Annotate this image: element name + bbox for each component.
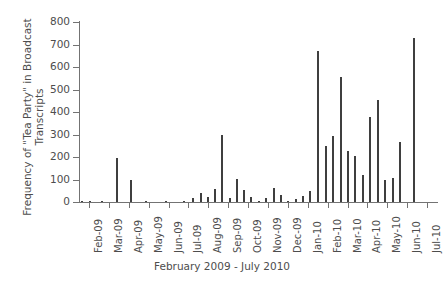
x-tick-Jan-10 [308,203,309,208]
x-tick-Apr-09 [129,203,130,208]
y-tick-label-800: 800 [8,15,70,27]
plot-area [79,22,437,202]
x-axis-tick-labels: Feb-09Mar-09Apr-09May-09Jun-09Jul-09Aug-… [79,209,438,255]
bar [354,156,356,202]
x-tick-Mar-10 [348,203,349,208]
bar [413,38,415,202]
x-tick-label-Nov-09: Nov-09 [272,217,283,253]
x-tick-label-Apr-09: Apr-09 [133,220,144,253]
bar [183,201,185,202]
x-tick-Aug-09 [208,203,209,208]
x-tick-Jun-10 [407,203,408,208]
bar [207,197,209,202]
bar [340,77,342,202]
bar [362,175,364,202]
bar [243,190,245,202]
x-tick-label-Oct-09: Oct-09 [252,219,263,253]
x-tick-label-Feb-10: Feb-10 [332,219,343,253]
bar [165,201,167,202]
y-tick-label-100: 100 [8,173,70,185]
bar [250,197,252,202]
bar [221,135,223,203]
x-tick-Feb-09 [89,203,90,208]
bar [214,189,216,203]
y-tick-label-0: 0 [8,195,70,207]
bar-series [79,22,437,202]
bar [295,199,297,202]
bar [302,196,304,202]
bar [130,180,132,203]
x-tick-Sep-09 [228,203,229,208]
bar [192,198,194,202]
y-tick-label-500: 500 [8,83,70,95]
bar [287,201,289,202]
x-tick-label-Apr-10: Apr-10 [371,220,382,253]
bar [81,201,83,202]
bar [384,180,386,202]
x-tick-Mar-09 [109,203,110,208]
x-tick-Jul-10 [427,203,428,208]
x-tick-label-Aug-09: Aug-09 [212,217,223,253]
x-tick-label-Mar-10: Mar-10 [352,218,363,253]
bar [273,188,275,202]
bar [145,201,147,202]
x-tick-label-Mar-09: Mar-09 [113,218,124,253]
bar [317,51,319,202]
x-tick-label-Sep-09: Sep-09 [232,218,243,253]
x-tick-Dec-09 [288,203,289,208]
bar [309,191,311,202]
y-tick-label-700: 700 [8,38,70,50]
x-tick-Jun-09 [169,203,170,208]
x-axis-title: February 2009 - July 2010 [0,260,444,272]
bar [265,198,267,202]
x-tick-label-Jul-10: Jul-10 [431,225,442,253]
x-tick-Feb-10 [328,203,329,208]
x-tick-label-Jul-09: Jul-09 [192,225,203,253]
x-tick-May-09 [149,203,150,208]
x-tick-label-Dec-09: Dec-09 [292,217,303,253]
x-tick-label-Jan-10: Jan-10 [312,221,323,253]
chart-figure: Frequency of "Tea Party" in Broadcast Tr… [0,0,444,289]
bar [325,146,327,202]
x-tick-Jul-09 [188,203,189,208]
bar [116,158,118,202]
bar [332,136,334,202]
bar [399,142,401,202]
x-tick-label-Jun-10: Jun-10 [411,221,422,253]
bar [377,100,379,202]
bar [347,151,349,202]
bar [200,193,202,202]
x-tick-Nov-09 [268,203,269,208]
x-tick-Apr-10 [367,203,368,208]
bar [101,201,103,202]
y-tick-label-400: 400 [8,105,70,117]
bar [258,201,260,202]
bar [236,179,238,202]
bar [392,178,394,202]
x-tick-label-Jun-09: Jun-09 [173,221,184,253]
y-tick-label-200: 200 [8,150,70,162]
x-tick-label-Feb-09: Feb-09 [93,219,104,253]
x-tick-label-May-09: May-09 [153,216,164,253]
x-tick-Oct-09 [248,203,249,208]
x-tick-May-10 [387,203,388,208]
bar [369,117,371,203]
bar [280,195,282,202]
bar [89,201,91,202]
bar [229,198,231,202]
x-tick-label-May-10: May-10 [391,216,402,253]
y-tick-label-300: 300 [8,128,70,140]
y-tick-label-600: 600 [8,60,70,72]
